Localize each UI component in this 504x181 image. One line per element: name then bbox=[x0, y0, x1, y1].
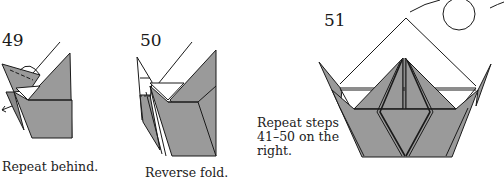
step-49-figure bbox=[2, 42, 72, 138]
step-49-caption: Repeat behind. bbox=[2, 160, 98, 174]
step-50-number: 50 bbox=[140, 30, 162, 50]
step-49-number: 49 bbox=[2, 30, 24, 50]
step-50-figure bbox=[137, 42, 216, 156]
step-51-number: 51 bbox=[324, 10, 346, 30]
step-51-figure bbox=[319, 0, 504, 157]
step-50-caption: Reverse fold. bbox=[145, 166, 228, 180]
repeat-instruction: Repeat steps 41–50 on the right. bbox=[257, 116, 339, 158]
sun-icon bbox=[443, 0, 475, 30]
instruction-line-1: Repeat steps bbox=[257, 116, 339, 130]
instruction-line-2: 41–50 on the bbox=[257, 130, 339, 144]
instruction-line-3: right. bbox=[257, 144, 339, 158]
origami-diagram bbox=[0, 0, 504, 181]
